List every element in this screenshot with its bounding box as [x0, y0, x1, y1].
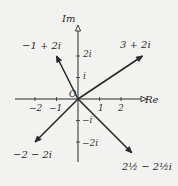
real-tick-label: −2 [29, 104, 42, 113]
vector-label-minus1-plus-2i: −1 + 2i [22, 41, 61, 51]
vector-minus1-plus-2i-arrow-icon [57, 56, 62, 63]
real-tick-label: 2 [118, 104, 124, 113]
imag-tick-label: −i [82, 116, 92, 125]
vector-label-minus2-minus-2i: −2 − 2i [13, 150, 52, 160]
imag-tick-label: i [83, 72, 86, 81]
real-tick-label: −1 [49, 104, 62, 113]
vector-label-3-plus-2i: 3 + 2i [120, 40, 151, 50]
vector-label-2half-minus-2half-i: 2½ − 2½i [122, 162, 172, 172]
real-axis-label: Re [145, 95, 158, 105]
argand-diagram: Im Re O −2 −1 1 2 2i i −i −2i 3 + 2i −1 … [0, 0, 178, 186]
vector-3-plus-2i [78, 56, 143, 99]
imag-tick-label: −2i [82, 139, 98, 148]
imaginary-axis-label: Im [62, 14, 75, 24]
real-tick-label: 1 [98, 104, 104, 113]
origin-label: O [69, 90, 76, 99]
vector-3-plus-2i-arrow-icon [136, 56, 142, 61]
imag-tick-label: 2i [83, 50, 92, 59]
imaginary-axis-arrow-icon [75, 25, 80, 31]
